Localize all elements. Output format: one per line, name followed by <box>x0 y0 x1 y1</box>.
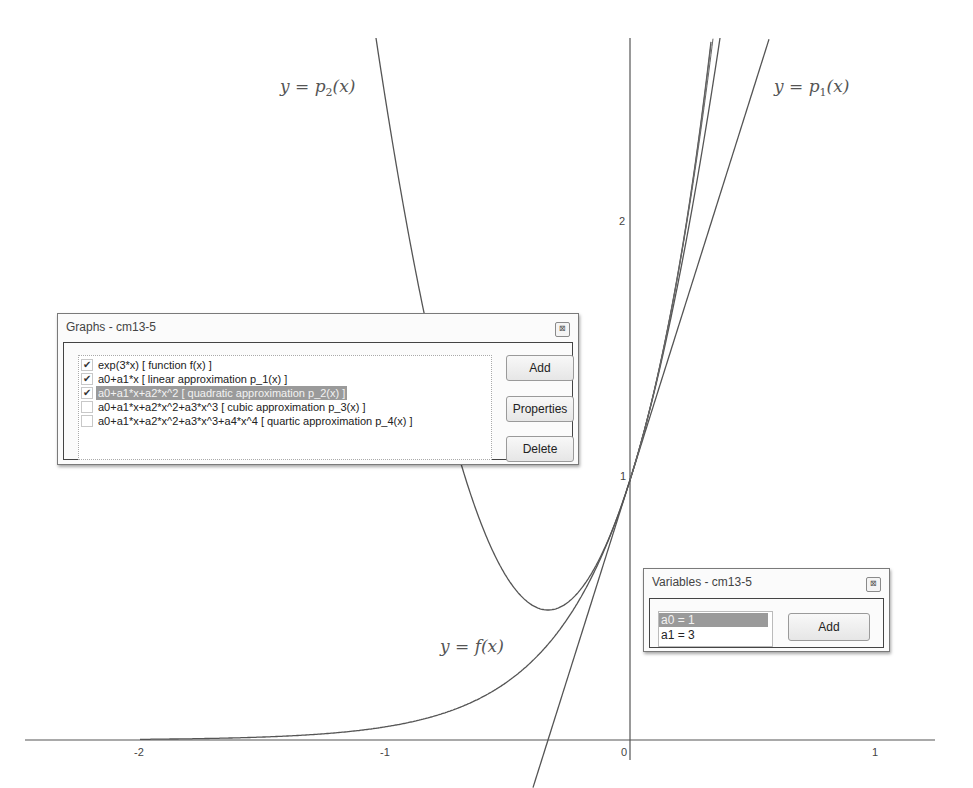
graphs-close-button[interactable]: ⊠ <box>555 322 570 337</box>
label-p1-rhs: (x) <box>827 76 850 96</box>
label-p2-rhs: (x) <box>333 76 356 96</box>
label-p2: y = p2(x) <box>280 76 355 99</box>
variable-list-item[interactable]: a0 = 1 <box>659 612 772 627</box>
graphs-panel: ✔exp(3*x) [ function f(x) ]✔a0+a1*x [ li… <box>63 342 573 460</box>
graph-expression: a0+a1*x+a2*x^2+a3*x^3 [ cubic approximat… <box>96 400 367 414</box>
graph-visible-checkbox[interactable]: ✔ <box>81 387 93 399</box>
graph-visible-checkbox[interactable]: ✔ <box>81 373 93 385</box>
close-icon: ⊠ <box>559 324 566 333</box>
graphs-dialog-title: Graphs - cm13-5 <box>66 320 156 334</box>
variables-dialog: Variables - cm13-5 ⊠ a0 = 1a1 = 3 Add <box>643 568 890 652</box>
label-f: y = f(x) <box>440 636 504 656</box>
y-tick-label: 2 <box>619 215 625 227</box>
variable-list-item[interactable]: a1 = 3 <box>659 627 772 642</box>
graph-visible-checkbox[interactable]: ✔ <box>81 359 93 371</box>
label-p2-sub: 2 <box>326 86 333 99</box>
x-tick-label: -1 <box>380 746 390 758</box>
add-variable-button[interactable]: Add <box>788 613 870 641</box>
graph-list-item[interactable]: ✔a0+a1*x+a2*x^2 [ quadratic approximatio… <box>79 386 491 400</box>
variables-panel: a0 = 1a1 = 3 Add <box>649 598 884 648</box>
x-tick-label: 0 <box>621 746 627 758</box>
x-tick-label: -2 <box>134 746 144 758</box>
y-tick-label: 1 <box>620 470 626 482</box>
graph-list-item[interactable]: ✔exp(3*x) [ function f(x) ] <box>79 358 491 372</box>
close-icon: ⊠ <box>870 579 877 588</box>
graph-expression: exp(3*x) [ function f(x) ] <box>96 358 214 372</box>
delete-graph-button[interactable]: Delete <box>506 436 574 462</box>
label-p1-lhs: y = p <box>774 76 820 96</box>
curve-higher-order <box>630 39 713 480</box>
x-tick-label: 1 <box>872 746 878 758</box>
graph-list-item[interactable]: a0+a1*x+a2*x^2+a3*x^3 [ cubic approximat… <box>79 400 491 414</box>
graph-expression: a0+a1*x+a2*x^2 [ quadratic approximation… <box>96 386 347 400</box>
properties-button[interactable]: Properties <box>506 396 574 422</box>
label-p1-sub: 1 <box>820 86 827 99</box>
graph-expression: a0+a1*x+a2*x^2+a3*x^3+a4*x^4 [ quartic a… <box>96 414 415 428</box>
variables-close-button[interactable]: ⊠ <box>866 577 881 592</box>
graphs-list[interactable]: ✔exp(3*x) [ function f(x) ]✔a0+a1*x [ li… <box>78 355 492 460</box>
label-p1: y = p1(x) <box>774 76 849 99</box>
variables-dialog-title: Variables - cm13-5 <box>652 575 752 589</box>
variable-value: a1 = 3 <box>659 628 768 642</box>
graph-list-item[interactable]: a0+a1*x+a2*x^2+a3*x^3+a4*x^4 [ quartic a… <box>79 414 491 428</box>
graph-visible-checkbox[interactable] <box>81 401 93 413</box>
add-graph-button[interactable]: Add <box>506 355 574 381</box>
graph-list-item[interactable]: ✔a0+a1*x [ linear approximation p_1(x) ] <box>79 372 491 386</box>
variable-value: a0 = 1 <box>659 613 768 627</box>
graph-expression: a0+a1*x [ linear approximation p_1(x) ] <box>96 372 289 386</box>
variables-list[interactable]: a0 = 1a1 = 3 <box>658 611 773 647</box>
label-p2-lhs: y = p <box>280 76 326 96</box>
graph-visible-checkbox[interactable] <box>81 415 93 427</box>
graphs-dialog: Graphs - cm13-5 ⊠ ✔exp(3*x) [ function f… <box>57 313 579 465</box>
